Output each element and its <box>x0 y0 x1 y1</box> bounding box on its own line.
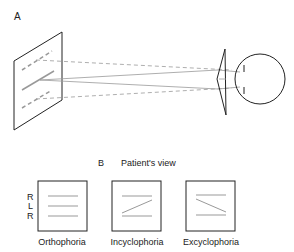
panel-a-label: A <box>14 11 21 22</box>
lower-solid-ray <box>40 80 218 89</box>
orthophoria-label: Orthophoria <box>38 237 86 247</box>
diagram-canvas: A B Patient's view R L R Orthophoria Inc… <box>0 0 294 252</box>
excyclophoria-label: Excyclophoria <box>183 237 239 247</box>
upper-solid-ray <box>40 70 218 80</box>
incyclophoria-label: Incyclophoria <box>110 237 163 247</box>
incyclophoria-view <box>112 181 161 231</box>
upper-dashed-ray <box>36 60 232 70</box>
row-label-l: L <box>28 201 33 211</box>
orthophoria-view <box>38 181 87 231</box>
panel-b-title: Patient's view <box>121 158 176 168</box>
prism <box>217 49 226 115</box>
excyclophoria-view <box>186 181 235 231</box>
lower-dashed-ray <box>36 88 232 99</box>
row-label-r-bottom: R <box>27 211 34 221</box>
eye <box>235 54 285 104</box>
panel-b-label: B <box>98 158 104 168</box>
